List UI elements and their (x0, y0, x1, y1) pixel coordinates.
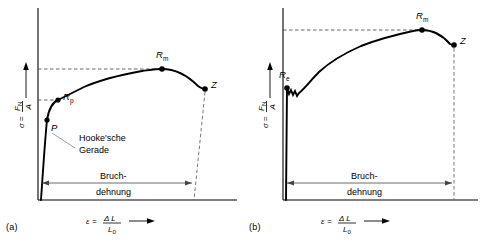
elongation-arrow-left (287, 180, 294, 185)
svg-text:ε=: ε= (321, 217, 332, 226)
svg-text:FN: FN (257, 102, 267, 111)
y-axis-arrow-head (23, 62, 29, 70)
point-Rm-marker (159, 66, 165, 72)
stress-strain-figure: P Rp Rm Z Hooke'sche Gerade Bruch- dehnu… (0, 0, 482, 245)
panel-a: P Rp Rm Z Hooke'sche Gerade Bruch- dehnu… (0, 0, 241, 245)
x-axis-label: ε= Δ L L0 (86, 214, 155, 236)
svg-text:L0: L0 (108, 225, 116, 235)
point-Z-marker (451, 42, 457, 48)
point-Re-label: Re (279, 69, 290, 82)
panel-b-plot: Re Rm Z Bruch- dehnung σ= FN (241, 0, 482, 245)
y-axis-arrow-head (267, 62, 273, 70)
point-Z-label: Z (210, 79, 218, 90)
point-Rm-marker (419, 27, 425, 33)
x-axis-label: ε= Δ L L0 (321, 214, 390, 236)
hookes-line-label-2: Gerade (79, 145, 109, 155)
point-Z-marker (202, 86, 208, 92)
hookes-line-label-1: Hooke'sche (79, 133, 126, 143)
svg-text:A: A (24, 104, 33, 110)
point-Rp-marker (55, 97, 60, 102)
svg-text:FN: FN (13, 102, 23, 111)
elongation-label-1: Bruch- (351, 171, 378, 181)
hookes-line-leader (52, 133, 75, 148)
y-axis-label: σ= FN A (257, 101, 277, 128)
y-axis-label: σ= FN A (13, 101, 33, 128)
fracture-drop-dashed (194, 92, 205, 200)
point-Re-marker (284, 85, 290, 91)
svg-text:σ=: σ= (261, 116, 270, 128)
point-Rm-label: Rm (156, 49, 168, 62)
point-P-marker (44, 117, 49, 122)
point-P-label: P (51, 122, 58, 133)
elongation-label-2: dehnung (96, 187, 131, 197)
point-Rm-label: Rm (416, 10, 428, 23)
panel-b-caption: (b) (249, 222, 261, 232)
point-Z-label: Z (459, 35, 467, 46)
svg-text:Δ L: Δ L (103, 214, 116, 223)
panel-b: Re Rm Z Bruch- dehnung σ= FN (241, 0, 482, 245)
svg-text:ε=: ε= (86, 217, 97, 226)
panel-a-caption: (a) (6, 222, 18, 232)
elongation-label-1: Bruch- (100, 171, 127, 181)
elongation-label-2: dehnung (347, 187, 382, 197)
svg-text:σ=: σ= (17, 116, 26, 128)
svg-text:L0: L0 (343, 225, 351, 235)
elongation-arrow-right (185, 180, 192, 185)
elongation-arrow-right (445, 180, 452, 185)
panel-a-plot: P Rp Rm Z Hooke'sche Gerade Bruch- dehnu… (0, 0, 241, 245)
svg-text:Δ L: Δ L (338, 214, 351, 223)
svg-text:A: A (268, 104, 277, 110)
